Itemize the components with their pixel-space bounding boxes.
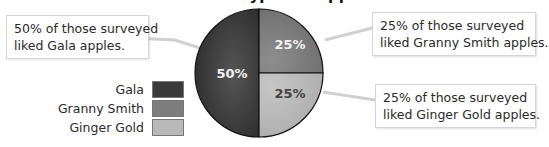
callout-ginger-gold: 25% of those surveyed liked Ginger Gold … xyxy=(375,84,536,128)
slice-label-ginger-gold: 25% xyxy=(274,86,305,101)
granny-leader-line xyxy=(325,28,372,40)
legend-label: Ginger Gold xyxy=(69,120,144,135)
legend-item-granny-smith: Granny Smith xyxy=(10,99,184,118)
slice-ginger-gold xyxy=(259,73,323,137)
slice-label-gala: 50% xyxy=(216,66,247,81)
callout-granny-smith: 25% of those surveyed liked Granny Smith… xyxy=(372,12,536,56)
legend-swatch-gala xyxy=(152,81,184,98)
callout-gala: 50% of those surveyed liked Gala apples. xyxy=(6,15,149,59)
legend-item-ginger-gold: Ginger Gold xyxy=(10,118,184,137)
legend-swatch-granny-smith xyxy=(152,100,184,117)
legend-label: Gala xyxy=(116,82,144,97)
callout-granny-line1: 25% of those surveyed xyxy=(380,17,528,34)
legend: Gala Granny Smith Ginger Gold xyxy=(10,80,184,137)
callout-gala-line1: 50% of those surveyed xyxy=(14,20,141,37)
callout-granny-line2: liked Granny Smith apples. xyxy=(380,34,528,51)
ginger-leader-line xyxy=(323,92,375,100)
callout-ginger-line1: 25% of those surveyed xyxy=(383,89,528,106)
legend-item-gala: Gala xyxy=(10,80,184,99)
legend-swatch-ginger-gold xyxy=(152,119,184,136)
callout-ginger-line2: liked Ginger Gold apples. xyxy=(383,106,528,123)
slice-label-granny-smith: 25% xyxy=(274,37,305,52)
legend-label: Granny Smith xyxy=(58,101,144,116)
callout-gala-line2: liked Gala apples. xyxy=(14,37,141,54)
